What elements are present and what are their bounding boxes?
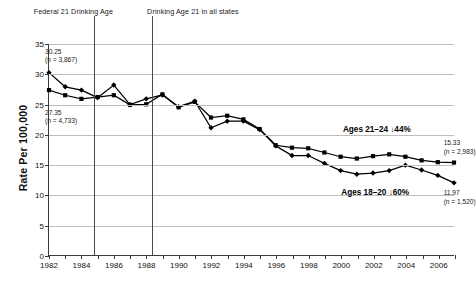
data-point-marker <box>322 150 326 154</box>
reference-vline-1 <box>94 16 95 255</box>
y-axis-title: Rate Per 100,000 <box>17 78 29 218</box>
data-point-marker <box>208 125 213 130</box>
x-tick-label: 1982 <box>40 261 58 270</box>
reference-vline-2 <box>152 16 153 255</box>
annotation-start-value-upper-rate: 30.25 <box>45 48 77 56</box>
x-tick-mark <box>406 255 407 259</box>
x-tick-mark <box>65 255 66 259</box>
x-tick-mark <box>439 255 440 259</box>
annotation-end-value-upper-rate: 15.33 <box>444 139 476 147</box>
x-tick-mark <box>211 255 212 259</box>
annotation-end-value-upper-n: (n = 2,983) <box>444 148 476 156</box>
gridline <box>49 226 454 227</box>
y-tick-label: 30 <box>35 70 44 79</box>
data-point-marker <box>451 180 456 185</box>
gridline <box>49 74 454 75</box>
data-point-marker <box>79 97 83 101</box>
data-point-marker <box>289 153 294 158</box>
data-point-marker <box>112 93 116 97</box>
x-tick-label: 2000 <box>332 261 350 270</box>
gridline <box>49 105 454 106</box>
y-tick-label: 0 <box>40 252 44 261</box>
y-tick-mark <box>45 74 49 75</box>
x-tick-mark <box>276 255 277 259</box>
data-point-marker <box>371 154 375 158</box>
data-point-marker <box>370 170 375 175</box>
x-tick-label: 2006 <box>430 261 448 270</box>
annotation-start-value-lower-n: (n = 4,733) <box>45 117 77 125</box>
x-tick-mark <box>146 255 147 259</box>
x-tick-mark <box>195 255 196 259</box>
x-tick-mark <box>455 255 456 259</box>
x-tick-mark <box>374 255 375 259</box>
data-point-marker <box>144 96 149 101</box>
y-tick-mark <box>45 135 49 136</box>
annotation-end-value-lower: 11.97 (n = 1,520) <box>444 189 476 206</box>
data-point-marker <box>258 127 262 131</box>
annotation-drinking-age-all-states: Drinking Age 21 in all states <box>147 7 239 16</box>
data-point-marker <box>96 95 100 99</box>
annotation-start-value-upper: 30.25 (n = 3,867) <box>45 48 77 65</box>
y-tick-mark <box>45 44 49 45</box>
data-point-marker <box>306 153 311 158</box>
y-tick-label: 15 <box>35 161 44 170</box>
x-tick-mark <box>49 255 50 259</box>
x-tick-mark <box>309 255 310 259</box>
annotation-end-value-lower-rate: 11.97 <box>444 189 476 197</box>
data-point-marker <box>225 114 229 118</box>
x-tick-label: 1990 <box>170 261 188 270</box>
x-tick-label: 1994 <box>235 261 253 270</box>
series-label-ages-21-24: Ages 21–24 ↓44% <box>343 125 411 134</box>
x-tick-mark <box>390 255 391 259</box>
y-tick-label: 20 <box>35 130 44 139</box>
y-tick-mark <box>45 195 49 196</box>
x-tick-label: 2004 <box>397 261 415 270</box>
data-point-marker <box>354 172 359 177</box>
data-point-marker <box>452 160 456 164</box>
data-point-marker <box>306 146 310 150</box>
data-point-marker <box>63 93 67 97</box>
data-point-marker <box>419 167 424 172</box>
data-point-marker <box>193 100 197 104</box>
data-point-marker <box>420 158 424 162</box>
x-tick-label: 1988 <box>138 261 156 270</box>
x-tick-mark <box>179 255 180 259</box>
data-point-marker <box>225 118 230 123</box>
x-tick-label: 2002 <box>365 261 383 270</box>
data-point-marker <box>241 117 245 121</box>
series-lines <box>49 44 454 255</box>
x-tick-mark <box>81 255 82 259</box>
annotation-end-value-lower-n: (n = 1,520) <box>444 198 476 206</box>
annotation-start-value-lower: 27.35 (n = 4,733) <box>45 109 77 126</box>
x-tick-mark <box>130 255 131 259</box>
y-tick-label: 25 <box>35 100 44 109</box>
x-tick-mark <box>423 255 424 259</box>
x-tick-mark <box>325 255 326 259</box>
data-point-marker <box>435 173 440 178</box>
plot-area: 0510152025303519821984198619881990199219… <box>48 44 454 256</box>
data-point-marker <box>339 155 343 159</box>
annotation-federal-drinking-age: Federal 21 Drinking Age <box>34 7 113 16</box>
y-tick-label: 35 <box>35 40 44 49</box>
x-tick-mark <box>244 255 245 259</box>
x-tick-mark <box>341 255 342 259</box>
y-tick-mark <box>45 165 49 166</box>
x-tick-label: 1998 <box>300 261 318 270</box>
gridline <box>49 44 454 45</box>
x-tick-label: 1984 <box>73 261 91 270</box>
x-tick-mark <box>114 255 115 259</box>
data-point-marker <box>338 168 343 173</box>
x-tick-mark <box>163 255 164 259</box>
x-tick-mark <box>293 255 294 259</box>
x-tick-label: 1986 <box>105 261 123 270</box>
x-tick-label: 1992 <box>202 261 220 270</box>
data-point-marker <box>387 168 392 173</box>
y-tick-mark <box>45 226 49 227</box>
y-tick-label: 10 <box>35 191 44 200</box>
data-point-marker <box>355 156 359 160</box>
y-tick-mark <box>45 105 49 106</box>
x-tick-mark <box>98 255 99 259</box>
series-label-ages-18-20: Ages 18–20 ↓60% <box>341 188 409 197</box>
data-point-marker <box>387 152 391 156</box>
